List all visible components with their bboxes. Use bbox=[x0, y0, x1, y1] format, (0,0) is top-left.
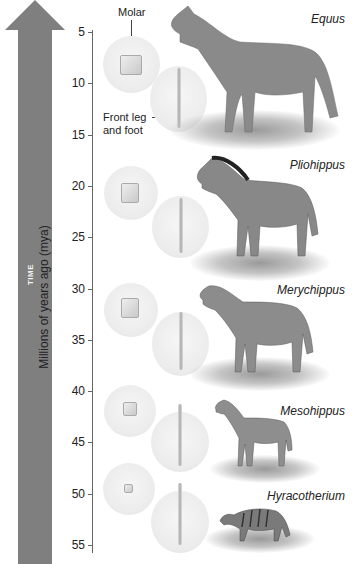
molar-tooth-icon bbox=[120, 55, 142, 75]
axis-tick bbox=[88, 494, 93, 495]
leg-bone-icon bbox=[178, 483, 182, 545]
axis-tick bbox=[88, 545, 93, 546]
axis-tick bbox=[88, 186, 93, 187]
axis-tick bbox=[88, 442, 93, 443]
time-label: TIME bbox=[26, 255, 35, 295]
axis-tick bbox=[88, 237, 93, 238]
leg-bone-icon bbox=[179, 312, 183, 370]
axis-label: Millions of years ago (mya) bbox=[37, 217, 51, 377]
molar-tooth-icon bbox=[123, 402, 137, 416]
molar-circle bbox=[104, 166, 158, 220]
species-name: Equus bbox=[311, 12, 345, 26]
molar-circle bbox=[103, 463, 155, 515]
axis-tick-label: 50 bbox=[55, 487, 85, 501]
molar-tooth-icon bbox=[124, 484, 133, 493]
axis-tick-label: 20 bbox=[55, 179, 85, 193]
axis-tick bbox=[88, 32, 93, 33]
axis-tick bbox=[88, 135, 93, 136]
molar-circle bbox=[104, 283, 158, 337]
molar-label: Molar bbox=[118, 6, 146, 19]
molar-circle bbox=[104, 385, 156, 437]
axis-tick bbox=[88, 340, 93, 341]
species-name: Mesohippus bbox=[280, 404, 345, 418]
axis-tick-label: 30 bbox=[55, 282, 85, 296]
front-leg-label-line2: and foot bbox=[103, 124, 146, 137]
leg-circle bbox=[151, 491, 209, 553]
axis-tick-label: 5 bbox=[55, 25, 85, 39]
time-axis-line bbox=[92, 30, 93, 553]
axis-tick-label: 25 bbox=[55, 230, 85, 244]
species-name: Pliohippus bbox=[290, 158, 345, 172]
leg-bone-icon bbox=[179, 198, 183, 253]
species-name: Merychippus bbox=[277, 283, 345, 297]
molar-tooth-icon bbox=[121, 183, 139, 203]
axis-tick-label: 15 bbox=[55, 128, 85, 142]
leg-circle bbox=[151, 412, 209, 472]
species-name: Hyracotherium bbox=[267, 489, 345, 503]
molar-tooth-icon bbox=[121, 298, 139, 318]
axis-tick-label: 45 bbox=[55, 435, 85, 449]
axis-tick-label: 35 bbox=[55, 333, 85, 347]
front-leg-label-line1: Front leg bbox=[103, 111, 146, 124]
molar-circle bbox=[103, 36, 160, 93]
axis-tick bbox=[88, 391, 93, 392]
front-leg-label: Front leg and foot bbox=[103, 111, 146, 137]
hyracotherium-animal-icon bbox=[218, 505, 298, 545]
axis-tick-label: 10 bbox=[55, 76, 85, 90]
leg-bone-icon bbox=[178, 404, 182, 466]
axis-tick-label: 40 bbox=[55, 384, 85, 398]
axis-tick bbox=[88, 289, 93, 290]
axis-tick bbox=[88, 83, 93, 84]
axis-tick-label: 55 bbox=[55, 538, 85, 552]
